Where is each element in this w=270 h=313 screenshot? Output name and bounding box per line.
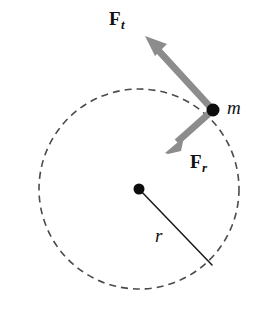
tangential-force-label: Ft	[109, 9, 125, 31]
radial-force-symbol: F	[190, 151, 202, 172]
mass-label: m	[227, 98, 241, 117]
radial-force-label: Fr	[190, 152, 207, 174]
circular-motion-diagram	[0, 0, 270, 313]
tangential-force-subscript: t	[121, 17, 125, 32]
particle-mass-dot	[207, 104, 220, 117]
radial-force-arrowhead	[165, 137, 184, 154]
tangential-force-vector	[145, 36, 213, 110]
radial-force-vector	[165, 110, 213, 154]
center-dot	[134, 184, 145, 195]
radial-force-subscript: r	[202, 160, 207, 175]
radius-line	[139, 189, 212, 265]
radial-force-shaft	[177, 110, 213, 142]
radius-label: r	[155, 226, 162, 245]
tangential-force-symbol: F	[109, 8, 121, 29]
